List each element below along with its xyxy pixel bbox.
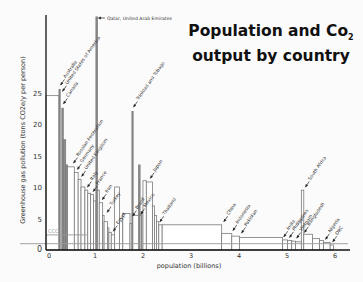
annotation: Trinidad and Tobago: [133, 60, 165, 107]
bar: [159, 225, 162, 250]
annotation: Thailand: [160, 197, 177, 222]
reference-label: CCC: [48, 228, 59, 234]
annotation-label: Qatar, United Arab Emirates: [107, 16, 173, 21]
bar: [68, 167, 75, 250]
title-line-2: output by country: [192, 47, 350, 65]
annotation: South Africa: [305, 155, 327, 187]
arrowhead-icon: [98, 17, 101, 20]
annotation-label: Trinidad and Tobago: [135, 60, 166, 102]
bar: [104, 222, 107, 250]
arrowhead-icon: [284, 234, 287, 237]
arrowhead-icon: [333, 239, 336, 242]
y-tick-label: 15: [33, 153, 42, 161]
bar: [88, 193, 91, 250]
annotation-label: Japan: [151, 159, 163, 173]
bar: [283, 240, 288, 250]
x-tick-label: 2: [141, 252, 145, 260]
bar: [46, 96, 59, 250]
y-tick-label: 5: [38, 216, 42, 224]
arrowhead-icon: [77, 166, 80, 169]
y-axis-label: Greenhouse gas pollution (tons CO2e/y pe…: [19, 56, 27, 223]
population-co2-chart: CCC 01234560510152025population (billion…: [0, 0, 363, 282]
arrowhead-icon: [102, 197, 105, 200]
arrowhead-icon: [82, 173, 85, 176]
arrowhead-icon: [289, 234, 292, 237]
arrowhead-icon: [297, 235, 300, 238]
arrowhead-icon: [73, 160, 76, 163]
bar: [81, 187, 85, 250]
bar: [74, 173, 78, 250]
arrowhead-icon: [305, 184, 308, 187]
y-tick-label: 0: [37, 245, 42, 254]
bar: [312, 239, 319, 250]
title-subscript: 2: [348, 33, 354, 42]
bar: [143, 181, 146, 250]
annotation-label: South Africa: [307, 155, 327, 181]
x-tick-label: 1: [93, 252, 97, 260]
x-tick-label: 6: [333, 252, 337, 260]
y-tick-label: 25: [33, 90, 42, 98]
bar: [99, 203, 102, 250]
bar: [304, 234, 313, 250]
bar: [123, 213, 130, 250]
annotation: Japan: [150, 159, 163, 179]
annotation-label: Iran: [104, 183, 113, 193]
bar: [287, 241, 291, 250]
title-line-1: Population and Co: [188, 22, 348, 40]
x-axis-label: population (billions): [157, 262, 222, 270]
bar: [222, 234, 232, 250]
annotation: United States of America: [62, 35, 101, 91]
bar: [330, 245, 333, 250]
x-tick-label: 3: [189, 252, 193, 260]
arrowhead-icon: [93, 188, 96, 191]
arrowhead-icon: [63, 101, 66, 104]
x-tick-label: 4: [237, 252, 241, 260]
annotation: Qatar, United Arab Emirates: [98, 16, 173, 21]
chart-title: Population and Co2 output by country: [186, 22, 356, 66]
bar: [146, 182, 152, 250]
arrowhead-icon: [133, 104, 136, 107]
bar: [320, 241, 324, 250]
bar: [296, 242, 302, 250]
bar: [232, 236, 240, 250]
bar: [162, 225, 222, 250]
bar: [78, 179, 81, 250]
bar: [292, 241, 296, 250]
arrowhead-icon: [233, 227, 236, 230]
arrowhead-icon: [87, 184, 90, 187]
annotation-label: China: [225, 202, 237, 216]
arrowhead-icon: [150, 175, 153, 178]
arrowhead-icon: [304, 229, 307, 232]
arrowhead-icon: [224, 219, 227, 222]
x-tick-label: 5: [285, 252, 289, 260]
arrowhead-icon: [62, 88, 65, 91]
x-tick-label: 0: [47, 252, 51, 260]
annotation: Iran: [102, 183, 113, 199]
y-tick-label: 10: [33, 184, 42, 192]
bar: [91, 195, 94, 250]
annotation: China: [224, 202, 238, 222]
arrowhead-icon: [325, 236, 328, 239]
annotation-label: Thailand: [161, 197, 177, 217]
y-tick-label: 20: [33, 121, 42, 129]
bar: [59, 89, 60, 250]
arrowhead-icon: [160, 219, 163, 222]
bar: [111, 235, 114, 250]
arrowhead-icon: [60, 82, 63, 85]
annotation: Russian Federation: [73, 119, 104, 164]
arrowhead-icon: [107, 209, 110, 212]
arrowhead-icon: [241, 230, 244, 233]
bar: [85, 190, 88, 250]
